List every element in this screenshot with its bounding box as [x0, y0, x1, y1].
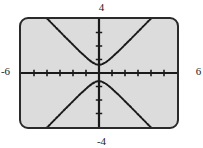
plot-area — [21, 19, 177, 127]
graph-figure: 4 -6 6 -4 — [0, 0, 203, 148]
y-min-label: -4 — [0, 136, 203, 147]
x-max-label: 6 — [196, 66, 201, 77]
y-max-label: 4 — [0, 2, 203, 13]
axes — [21, 19, 177, 127]
x-min-label: -6 — [1, 66, 10, 77]
calculator-screen — [19, 17, 179, 129]
